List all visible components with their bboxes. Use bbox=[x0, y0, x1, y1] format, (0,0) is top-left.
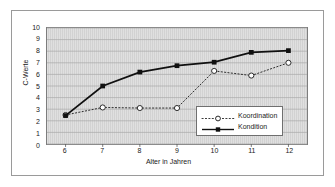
y-tick-label: 2 bbox=[26, 118, 40, 125]
data-point-koordination bbox=[174, 105, 179, 110]
x-axis-tick-labels: 6789101112 bbox=[46, 147, 308, 157]
data-point-koordination bbox=[137, 105, 142, 110]
data-point-koordination bbox=[286, 60, 291, 65]
data-point-koordination bbox=[249, 73, 254, 78]
x-tick-label: 7 bbox=[94, 147, 110, 154]
data-point-koordination bbox=[100, 105, 105, 110]
x-tick-label: 11 bbox=[244, 147, 260, 154]
legend-marker-open-circle-icon bbox=[201, 110, 235, 121]
data-point-kondition bbox=[63, 113, 68, 118]
data-point-kondition bbox=[212, 60, 217, 65]
data-point-kondition bbox=[286, 48, 291, 53]
x-tick-label: 6 bbox=[57, 147, 73, 154]
x-tick-label: 10 bbox=[206, 147, 222, 154]
data-point-kondition bbox=[249, 50, 254, 55]
chart-legend: Koordination Kondition bbox=[196, 106, 283, 136]
y-tick-label: 10 bbox=[26, 24, 40, 31]
legend-marker-filled-square-icon bbox=[201, 121, 235, 132]
data-point-kondition bbox=[175, 63, 180, 68]
data-point-koordination bbox=[212, 68, 217, 73]
y-tick-label: 0 bbox=[26, 142, 40, 149]
data-point-kondition bbox=[137, 70, 142, 75]
chart-container: C-Werte 109876543210 6789101112 Alter in… bbox=[12, 11, 323, 175]
y-tick-label: 9 bbox=[26, 35, 40, 42]
legend-label-kondition: Kondition bbox=[235, 123, 267, 130]
x-axis-title: Alter in Jahren bbox=[12, 158, 325, 165]
y-tick-label: 1 bbox=[26, 130, 40, 137]
y-tick-label: 6 bbox=[26, 71, 40, 78]
y-tick-label: 4 bbox=[26, 94, 40, 101]
chart-frame: C-Werte 109876543210 6789101112 Alter in… bbox=[11, 10, 324, 176]
x-tick-label: 8 bbox=[132, 147, 148, 154]
y-axis-tick-labels: 109876543210 bbox=[26, 11, 40, 177]
y-tick-label: 7 bbox=[26, 59, 40, 66]
legend-item-koordination: Koordination bbox=[201, 110, 277, 121]
legend-label-koordination: Koordination bbox=[235, 112, 277, 119]
y-tick-label: 5 bbox=[26, 83, 40, 90]
data-point-kondition bbox=[100, 84, 105, 89]
y-tick-label: 8 bbox=[26, 47, 40, 54]
legend-item-kondition: Kondition bbox=[201, 121, 277, 132]
x-tick-label: 12 bbox=[281, 147, 297, 154]
y-tick-label: 3 bbox=[26, 106, 40, 113]
x-tick-label: 9 bbox=[169, 147, 185, 154]
